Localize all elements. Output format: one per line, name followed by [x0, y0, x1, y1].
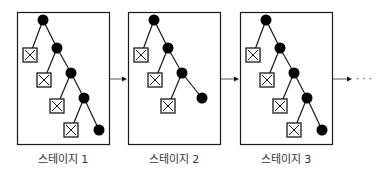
node-icon [261, 15, 272, 26]
node-icon [289, 68, 300, 79]
stage-3-label: 스테이지 3 [240, 150, 332, 166]
node-icon [66, 68, 77, 79]
stage-diagram: · · · [0, 0, 378, 172]
leaf-node-icon [94, 125, 105, 136]
node-icon [163, 43, 174, 54]
leaf-node-icon [317, 125, 328, 136]
node-icon [52, 43, 63, 54]
node-icon [275, 43, 286, 54]
stage-2-frame [129, 13, 221, 145]
node-icon [302, 93, 313, 104]
node-icon [79, 93, 90, 104]
stage-1-label: 스테이지 1 [17, 150, 109, 166]
node-icon [38, 15, 49, 26]
node-icon [177, 68, 188, 79]
leaf-node-icon [197, 93, 208, 104]
node-icon [149, 15, 160, 26]
continuation-dots: · · · [356, 73, 372, 84]
stage-2-label: 스테이지 2 [128, 150, 220, 166]
